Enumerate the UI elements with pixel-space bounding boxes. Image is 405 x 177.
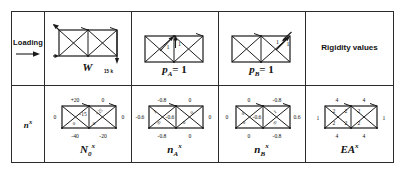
truss-pA: 1 1 <box>141 28 211 66</box>
truss-pB: 1 1 <box>228 28 298 66</box>
caption-pA-eq: = 1 <box>172 63 187 75</box>
caption-N0x-sub: 0 <box>88 150 92 158</box>
svg-text:1: 1 <box>167 44 170 50</box>
value-center-vertical-lower: 2 <box>345 120 348 126</box>
svg-text:1: 1 <box>276 39 279 45</box>
right-arrow-icon <box>15 50 41 58</box>
caption-nBx-sup: x <box>265 142 269 150</box>
caption-nAx-sub: A <box>173 150 178 158</box>
value-diagonal-upper: +25 <box>94 107 104 116</box>
caption-pA: pA= 1 <box>131 64 218 78</box>
value-bottom-right: -0.8 <box>273 133 282 139</box>
truss-N0x: +20 0 -40 -20 -15 0 0 +25 0 0 <box>49 93 129 141</box>
value-top-left: -0.8 <box>158 97 167 103</box>
loading-diagram-W-cell: W 15 k <box>44 12 131 85</box>
value-center-vertical-upper: 2 <box>345 108 348 114</box>
force-diagram-EAx-cell: 4 4 4 4 1 1 2 2 2 2 2 2 EAx <box>305 85 394 163</box>
svg-text:1: 1 <box>178 41 181 47</box>
rigidity-values-cell: Rigidity values <box>305 12 394 85</box>
value-bottom-left: 0 <box>248 133 251 139</box>
value-diagonal-right-upper: 1 <box>272 109 278 115</box>
rigidity-values-label: Rigidity values <box>321 44 377 53</box>
caption-EAx-main: EA <box>340 143 355 155</box>
loading-diagram-pA-cell: 1 1 pA= 1 <box>131 12 218 85</box>
force-diagram-nAx-cell: -0.8 0 -0.8 0 -0.6 -0.6 0 1 0 0 0 nAx <box>131 85 218 163</box>
value-diagonal-left-upper: 0 <box>242 111 245 116</box>
svg-text:1: 1 <box>287 41 290 47</box>
truss-nBx: 0 -0.8 0 -0.8 -0.6 0 0.6 0 0 1 0 <box>222 93 302 141</box>
nx-header-cell: nx <box>12 85 44 163</box>
force-diagram-nBx-cell: 0 -0.8 0 -0.8 -0.6 0 0.6 0 0 1 0 nBx <box>218 85 305 163</box>
value-top-right: -0.8 <box>273 97 282 103</box>
nx-row-label: nx <box>24 118 32 130</box>
value-diagonal-right-lower: 0 <box>272 120 278 126</box>
caption-nAx-sup: x <box>178 142 182 150</box>
value-top-right: 0 <box>189 97 192 103</box>
caption-pB: pB= 1 <box>218 64 305 78</box>
value-center-vertical: -15 <box>79 111 87 117</box>
caption-EAx-sup: x <box>355 142 359 150</box>
caption-nBx-sub: B <box>260 150 265 158</box>
value-center-vertical: -0.6 <box>166 114 175 120</box>
value-right-vertical: 1 <box>383 115 386 121</box>
value-right-vertical: 0.6 <box>294 114 301 120</box>
caption-nBx: nBx <box>218 143 305 158</box>
value-top-left: 0 <box>248 97 251 103</box>
caption-nAx: nAx <box>131 143 218 158</box>
value-diagonal-left: 2 <box>333 108 336 114</box>
value-left-vertical: 0 <box>54 114 57 120</box>
loading-diagram-pB-cell: 1 1 pB= 1 <box>218 12 305 85</box>
value-bottom-right: 0 <box>189 133 192 139</box>
value-center-vertical: -0.6 <box>253 114 262 120</box>
figure-root: Loading <box>0 0 405 177</box>
value-diagonal-left-lower: 2 <box>333 120 336 126</box>
value-diagonal-right-lower: 2 <box>358 120 361 126</box>
force-diagram-N0x-cell: +20 0 -40 -20 -15 0 0 +25 0 0 N0x <box>44 85 131 163</box>
truss-nAx: -0.8 0 -0.8 0 -0.6 -0.6 0 1 0 0 0 <box>135 93 215 141</box>
value-top-right: 4 <box>363 97 366 103</box>
loading-label: Loading <box>13 39 43 47</box>
loading-header-cell: Loading <box>12 12 44 85</box>
value-top-right: 0 <box>102 97 105 103</box>
value-diagonal-lower-left: 0 <box>73 121 76 126</box>
value-right-vertical: 0 <box>209 114 212 120</box>
value-bottom-right: 4 <box>363 133 366 139</box>
figure-table: Loading <box>11 11 394 163</box>
caption-N0x-sup: x <box>91 142 95 150</box>
value-top-left: 4 <box>336 97 339 103</box>
caption-pB-eq: = 1 <box>259 63 274 75</box>
nx-row-label-sup: x <box>29 118 32 125</box>
value-left-vertical: 0 <box>226 114 229 120</box>
value-bottom-right: -20 <box>99 133 107 139</box>
load-label-15k: 15 k <box>104 69 113 74</box>
value-bottom-left: -0.8 <box>158 133 167 139</box>
value-bottom-left: -40 <box>71 133 79 139</box>
caption-EAx: EAx <box>305 143 394 155</box>
value-top-left: +20 <box>71 97 80 103</box>
value-diagonal-right: 2 <box>358 108 361 114</box>
value-diagonal-left-upper: 1 <box>152 109 158 115</box>
value-right-vertical: 0 <box>122 114 125 120</box>
value-bottom-left: 4 <box>336 133 339 139</box>
value-left-vertical: 1 <box>317 115 320 121</box>
value-left-vertical: -0.6 <box>136 114 145 120</box>
caption-N0x-main: N <box>80 143 88 155</box>
caption-N0x: N0x <box>44 143 131 158</box>
caption-W-text: W <box>83 61 93 73</box>
caption-W: W <box>44 62 131 73</box>
truss-EAx: 4 4 4 4 1 1 2 2 2 2 2 2 <box>312 93 390 141</box>
